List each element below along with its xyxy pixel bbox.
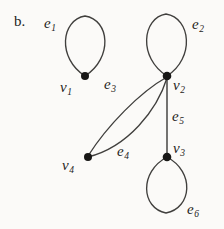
edge-label-e4-text: e — [117, 143, 124, 159]
vertex-v1 — [81, 72, 89, 80]
vertex-label-v3: v3 — [173, 141, 184, 156]
edge-label-e6-sub: 6 — [194, 209, 199, 219]
vertex-label-v4-text: v — [62, 157, 69, 173]
graph-drawing — [0, 0, 224, 229]
edge-label-e2: e2 — [192, 17, 203, 32]
edge-label-e1-text: e — [44, 15, 51, 31]
edge-e2-loop — [147, 14, 187, 76]
vertex-label-v3-text: v — [173, 140, 180, 156]
vertex-label-v2-sub: 2 — [180, 85, 185, 95]
edge-label-e2-sub: 2 — [199, 24, 204, 34]
edge-label-e1: e1 — [44, 16, 55, 31]
vertex-label-v1-text: v — [60, 79, 67, 95]
edge-label-e4: e4 — [117, 144, 128, 159]
graph-figure: b. e1 e2 e3 e4 e5 e6 v1 v2 v3 v4 — [0, 0, 224, 229]
vertex-label-v4-sub: 4 — [69, 165, 74, 175]
edge-label-e5: e5 — [172, 109, 183, 124]
vertex-label-v3-sub: 3 — [180, 148, 185, 158]
edge-label-e1-sub: 1 — [51, 23, 56, 33]
edge-label-e6: e6 — [187, 202, 198, 217]
edge-label-e3-sub: 3 — [111, 84, 116, 94]
edge-e6-loop — [147, 157, 187, 213]
edge-label-e5-text: e — [172, 108, 179, 124]
edge-label-e4-sub: 4 — [124, 151, 129, 161]
vertex-label-v4: v4 — [62, 158, 73, 173]
vertex-label-v1-sub: 1 — [67, 87, 72, 97]
edge-label-e5-sub: 5 — [179, 116, 184, 126]
vertex-v3 — [163, 153, 172, 162]
edge-label-e6-text: e — [187, 201, 194, 217]
edge-label-e2-text: e — [192, 16, 199, 32]
vertex-label-v2-text: v — [173, 77, 180, 93]
vertex-v2 — [163, 72, 172, 81]
part-label: b. — [14, 14, 25, 29]
vertex-label-v1: v1 — [60, 80, 71, 95]
edge-label-e3: e3 — [104, 77, 115, 92]
edge-e1-loop — [65, 16, 104, 76]
vertex-v4 — [84, 153, 92, 161]
edge-label-e3-text: e — [104, 76, 111, 92]
vertex-label-v2: v2 — [173, 78, 184, 93]
